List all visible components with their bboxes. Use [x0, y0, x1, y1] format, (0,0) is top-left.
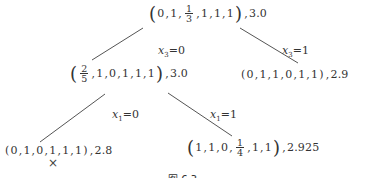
- figure-caption: 图 6.3: [168, 171, 197, 178]
- fraction: 1 4: [236, 138, 244, 157]
- lparen: (: [5, 145, 10, 156]
- edge-root-left1: [92, 28, 143, 60]
- lparen: (: [187, 139, 194, 157]
- lparen: (: [241, 69, 246, 80]
- rparen: ): [319, 69, 324, 80]
- node-left1: ( 2 5 , 1, 0, 1, 1, 1 ), 3.0: [69, 64, 188, 83]
- edge-left1-left2: [40, 94, 105, 142]
- edge-label-x1-1: x1=1: [210, 108, 237, 123]
- edge-label-x3-1: x3=1: [282, 44, 309, 59]
- rparen: ): [156, 65, 163, 83]
- node-root: ( 0, 1, 1 3 , 1, 1, 1 ), 3.0: [148, 4, 267, 23]
- node-value: 3.0: [170, 67, 188, 80]
- node-right2: ( 1, 1, 0, 1 4 , 1, 1 ), 2.925: [186, 138, 319, 157]
- node-value: 3.0: [249, 7, 267, 20]
- fraction: 1 3: [185, 4, 193, 23]
- rparen: ): [83, 145, 88, 156]
- node-value: 2.9: [330, 68, 348, 81]
- pruned-cross-icon: ×: [48, 156, 58, 170]
- lparen: (: [70, 65, 77, 83]
- node-value: 2.8: [94, 144, 112, 157]
- fraction: 2 5: [80, 64, 88, 83]
- node-right1: ( 0, 1, 1, 0, 1, 1 ), 2.9: [240, 68, 349, 81]
- edge-label-x1-0: x1=0: [112, 108, 139, 123]
- rparen: ): [273, 139, 280, 157]
- lparen: (: [149, 5, 156, 23]
- rparen: ): [235, 5, 242, 23]
- node-value: 2.925: [287, 141, 320, 154]
- edge-label-x3-0: x3=0: [158, 44, 185, 59]
- node-left2: ( 0, 1, 0, 1, 1, 1 ), 2.8: [4, 144, 113, 157]
